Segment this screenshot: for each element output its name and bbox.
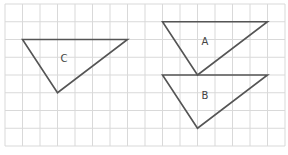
grid-diagram: C A B <box>0 0 288 155</box>
label-c: C <box>61 53 68 64</box>
label-a: A <box>202 36 209 47</box>
label-b: B <box>202 90 209 101</box>
